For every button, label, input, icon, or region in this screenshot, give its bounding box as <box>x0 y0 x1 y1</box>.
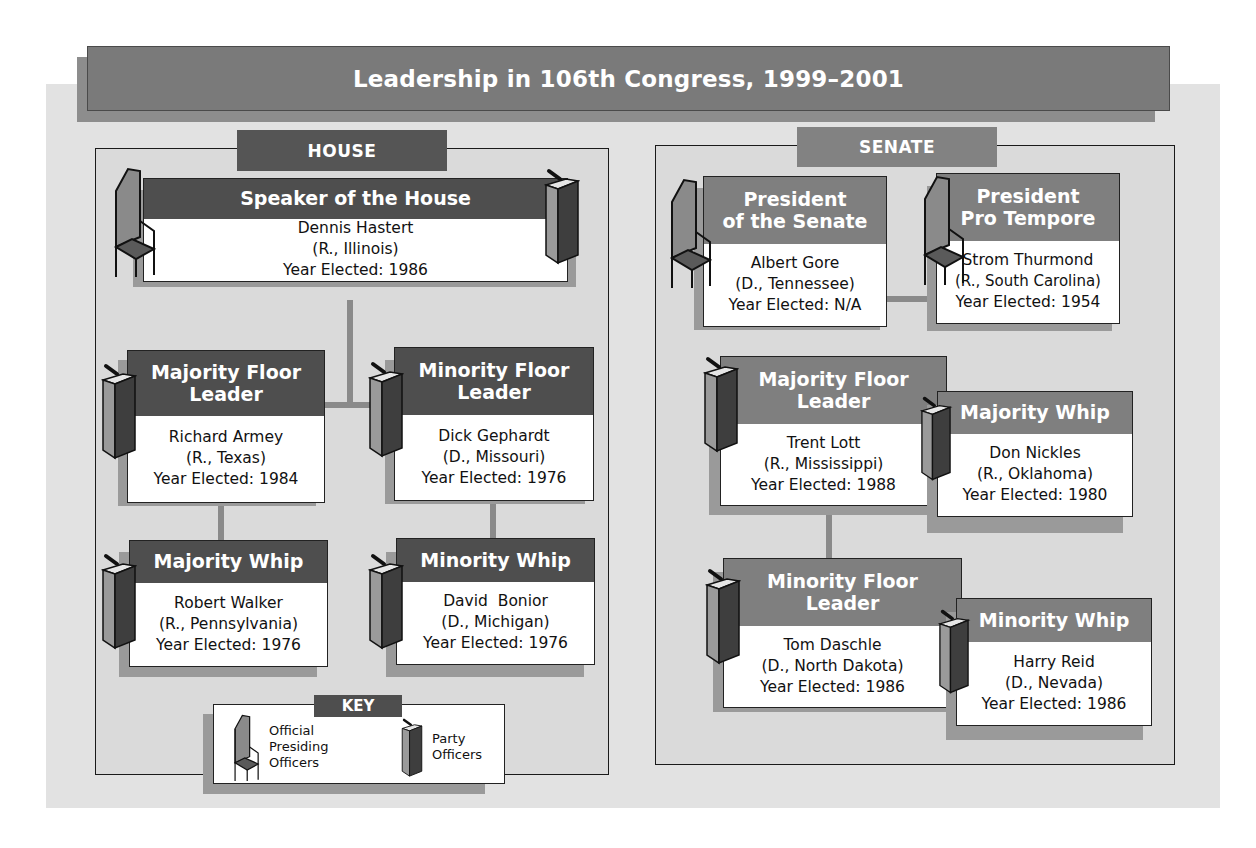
podium-icon <box>703 355 739 455</box>
podium-icon <box>101 552 137 652</box>
senate-minority-whip-card: Minority Whip Harry Reid (D., Nevada) Ye… <box>956 598 1152 726</box>
senate-president-card: President of the Senate Albert Gore (D.,… <box>703 176 887 327</box>
card-details: Robert Walker (R., Pennsylvania) Year El… <box>130 583 327 665</box>
officer-year: Year Elected: 1954 <box>956 292 1101 313</box>
legend-text: Party <box>432 731 482 747</box>
card-title: Majority Whip <box>938 392 1132 434</box>
officer-name: Trent Lott <box>787 433 861 454</box>
title-line: Majority Floor <box>758 369 908 390</box>
title-line: Leader <box>797 391 871 412</box>
title-line: Majority Floor <box>151 362 301 383</box>
officer-party: (D., Missouri) <box>443 447 546 468</box>
officer-party: (D., Tennessee) <box>735 274 855 295</box>
officer-party: (R., Pennsylvania) <box>159 614 298 635</box>
house-majority-leader-card: Majority Floor Leader Richard Armey (R.,… <box>127 350 325 503</box>
title-line: Minority Floor <box>419 360 570 381</box>
officer-year: Year Elected: 1986 <box>760 677 905 698</box>
chair-icon <box>112 165 156 277</box>
speaker-year: Year Elected: 1986 <box>283 260 428 281</box>
officer-name: Tom Daschle <box>783 635 881 656</box>
house-minority-whip-card: Minority Whip David Bonior (D., Michigan… <box>396 538 595 665</box>
officer-name: David Bonior <box>443 591 548 612</box>
legend-item-presiding: Official Presiding Officers <box>269 723 328 771</box>
officer-party: (D., Nevada) <box>1005 673 1103 694</box>
card-title: Majority Whip <box>130 541 327 583</box>
card-title: Majority Floor Leader <box>128 351 324 416</box>
officer-year: Year Elected: N/A <box>729 295 862 316</box>
card-details: Tom Daschle (D., North Dakota) Year Elec… <box>724 626 961 706</box>
officer-year: Year Elected: 1976 <box>156 635 301 656</box>
officer-name: Strom Thurmond <box>963 250 1094 271</box>
card-title: President of the Senate <box>704 177 886 244</box>
card-title: Minority Whip <box>957 599 1151 642</box>
podium-icon <box>101 362 137 462</box>
title-line: Leader <box>806 593 880 614</box>
card-title: Minority Floor Leader <box>724 559 961 626</box>
officer-party: (D., Michigan) <box>441 612 549 633</box>
officer-year: Year Elected: 1986 <box>982 694 1127 715</box>
podium-icon <box>401 717 423 779</box>
connector-line <box>490 498 496 540</box>
house-majority-whip-card: Majority Whip Robert Walker (R., Pennsyl… <box>129 540 328 667</box>
house-minority-leader-card: Minority Floor Leader Dick Gephardt (D.,… <box>394 347 594 501</box>
legend-text: Presiding <box>269 739 328 755</box>
chair-icon <box>668 176 712 288</box>
card-details: Albert Gore (D., Tennessee) Year Elected… <box>704 244 886 325</box>
card-details: Dick Gephardt (D., Missouri) Year Electe… <box>395 415 593 499</box>
officer-party: (D., North Dakota) <box>761 656 903 677</box>
senate-label: SENATE <box>797 127 997 167</box>
podium-icon <box>368 552 404 652</box>
officer-name: Don Nickles <box>989 443 1081 464</box>
officer-name: Albert Gore <box>751 253 840 274</box>
connector-line <box>218 500 224 542</box>
house-label: HOUSE <box>237 130 447 171</box>
connector-line <box>347 300 353 408</box>
podium-icon <box>918 395 954 483</box>
card-details: Trent Lott (R., Mississippi) Year Electe… <box>721 424 946 504</box>
podium-icon <box>705 567 741 667</box>
card-details: David Bonior (D., Michigan) Year Elected… <box>397 582 594 663</box>
officer-year: Year Elected: 1976 <box>422 468 567 489</box>
officer-year: Year Elected: 1976 <box>423 633 568 654</box>
chair-icon <box>232 713 260 781</box>
speaker-card: Speaker of the House Dennis Hastert (R.,… <box>143 178 568 282</box>
title-line: Leader <box>189 384 263 405</box>
card-details: Richard Armey (R., Texas) Year Elected: … <box>128 416 324 501</box>
title-line: President <box>976 186 1079 207</box>
speaker-party: (R., Illinois) <box>312 239 398 260</box>
page-title: Leadership in 106th Congress, 1999–2001 <box>87 46 1170 111</box>
senate-minority-leader-card: Minority Floor Leader Tom Daschle (D., N… <box>723 558 962 708</box>
title-line: President <box>743 189 846 210</box>
legend-text: Officers <box>269 755 328 771</box>
officer-name: Dick Gephardt <box>438 426 549 447</box>
officer-party: (R., Mississippi) <box>764 454 884 475</box>
title-line: Leader <box>457 382 531 403</box>
officer-name: Richard Armey <box>169 427 283 448</box>
title-line: of the Senate <box>723 211 868 232</box>
legend-text: Official <box>269 723 328 739</box>
officer-year: Year Elected: 1980 <box>963 485 1108 506</box>
speaker-name: Dennis Hastert <box>298 218 414 239</box>
card-details: Don Nickles (R., Oklahoma) Year Elected:… <box>938 434 1132 515</box>
officer-party: (R., Texas) <box>186 448 266 469</box>
podium-icon <box>368 360 404 460</box>
senate-majority-whip-card: Majority Whip Don Nickles (R., Oklahoma)… <box>937 391 1133 517</box>
officer-party: (R., South Carolina) <box>955 271 1101 292</box>
legend-item-party: Party Officers <box>432 731 482 763</box>
title-line: Pro Tempore <box>961 208 1096 229</box>
speaker-title: Speaker of the House <box>144 179 567 219</box>
officer-year: Year Elected: 1988 <box>751 475 896 496</box>
card-title: Minority Floor Leader <box>395 348 593 415</box>
officer-name: Harry Reid <box>1013 652 1094 673</box>
officer-name: Robert Walker <box>174 593 283 614</box>
legend-title: KEY <box>314 695 402 717</box>
senate-majority-leader-card: Majority Floor Leader Trent Lott (R., Mi… <box>720 356 947 506</box>
card-details: Harry Reid (D., Nevada) Year Elected: 19… <box>957 642 1151 724</box>
card-title: Minority Whip <box>397 539 594 582</box>
speaker-details: Dennis Hastert (R., Illinois) Year Elect… <box>144 219 567 280</box>
chair-icon <box>921 173 965 285</box>
officer-year: Year Elected: 1984 <box>154 469 299 490</box>
legend-text: Officers <box>432 747 482 763</box>
title-line: Minority Floor <box>767 571 918 592</box>
officer-party: (R., Oklahoma) <box>977 464 1093 485</box>
